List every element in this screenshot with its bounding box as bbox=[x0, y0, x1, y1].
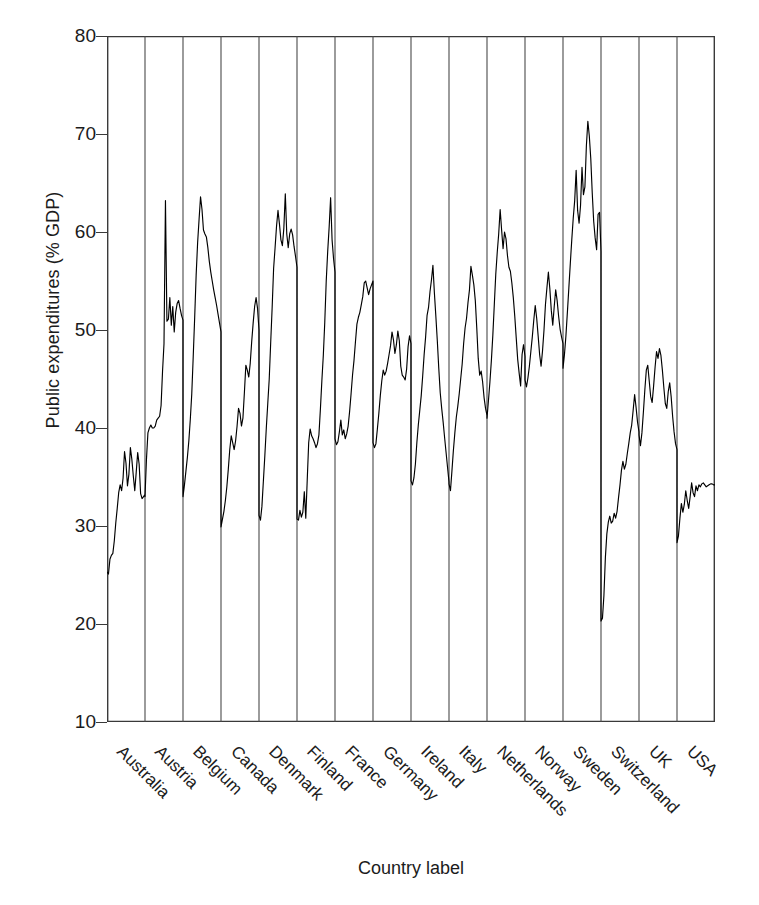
chart-figure: Public expenditures (% GDP) 807060504030… bbox=[0, 0, 759, 905]
x-category-label-uk: UK bbox=[646, 742, 675, 771]
x-axis-title: Country label bbox=[107, 858, 715, 879]
x-axis-category-labels: AustraliaAustriaBelgiumCanadaDenmarkFinl… bbox=[0, 0, 759, 905]
x-category-label-usa: USA bbox=[684, 742, 721, 779]
